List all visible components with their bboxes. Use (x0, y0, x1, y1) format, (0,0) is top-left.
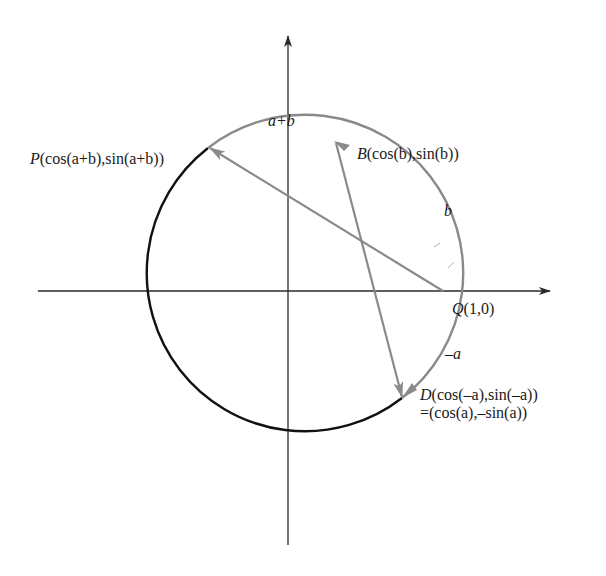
label-D-equivalent: =(cos(a),–sin(a)) (420, 404, 527, 422)
label-B: B(cos(b),sin(b)) (357, 145, 459, 163)
label-Q: Q(1,0) (452, 300, 494, 318)
label-arc-b: b (444, 202, 452, 219)
arc-arrow-icon (402, 383, 417, 398)
black-arc (147, 148, 402, 431)
chord-B-to-D (336, 143, 402, 397)
label-arc-neg-a: –a (444, 345, 461, 362)
label-P: P(cos(a+b),sin(a+b)) (29, 150, 164, 168)
label-D: D(cos(–a),sin(–a)) (419, 386, 538, 404)
unit-circle-diagram: P(cos(a+b),sin(a+b)) B(cos(b),sin(b)) a+… (0, 0, 606, 576)
arc-tick (448, 262, 454, 268)
label-arc-a-plus-b: a+b (268, 112, 295, 129)
arc-tick (434, 243, 440, 247)
chord-Q-to-P (210, 148, 443, 291)
